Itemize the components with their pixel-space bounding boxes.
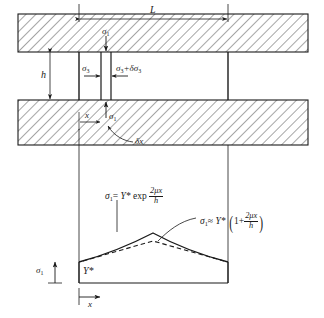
- label-yield-strength: Y*: [83, 266, 94, 276]
- label-sigma3-right: σ3+δσ3: [116, 64, 141, 75]
- label-gap-h: h: [41, 70, 46, 80]
- eq-approx-open-paren: (: [229, 214, 233, 233]
- eq-approx-relation: ≈: [208, 216, 213, 226]
- eq-exact-denominator: h: [149, 197, 163, 206]
- eq-exact-coefficient: Y*: [121, 191, 131, 201]
- eq-exact-fraction: 2μxh: [149, 187, 163, 206]
- eq-approx-coefficient: Y*: [215, 216, 225, 226]
- label-length-L: L: [150, 5, 156, 15]
- sigma-subscript: 1: [113, 116, 116, 122]
- eq-exact-relation: =: [113, 191, 118, 201]
- delta-sigma-term: +δσ: [123, 63, 138, 73]
- friction-hill-figure: L h σ1 σ3 σ3+δσ3 σ1 x δx σ1= Y* exp 2μxh…: [0, 0, 324, 318]
- label-sigma1-top: σ1: [102, 27, 109, 38]
- eq-approx-one-plus: 1+: [234, 216, 244, 226]
- label-axis-sigma1: σ1: [36, 266, 43, 277]
- figure-canvas: [0, 0, 324, 318]
- equation-approx: σ1≈ Y* (1+2μxh): [200, 212, 264, 233]
- upper-platen: [18, 14, 308, 52]
- label-sigma3-left: σ3: [82, 64, 89, 75]
- label-sigma1-bottom: σ1: [109, 112, 116, 123]
- label-delta-x: δx: [135, 137, 143, 146]
- delta-sigma-subscript: 3: [138, 68, 141, 74]
- eq-exact-function: exp: [133, 191, 147, 201]
- label-axis-x: x: [88, 300, 92, 309]
- sigma-subscript: 1: [106, 31, 109, 37]
- label-x-top: x: [85, 111, 89, 120]
- eq-approx-close-paren: ): [259, 214, 263, 233]
- eq-approx-denominator: h: [244, 222, 258, 231]
- eq-approx-fraction: 2μxh: [244, 212, 258, 231]
- lower-platen: [18, 100, 308, 145]
- sigma-subscript: 1: [40, 270, 43, 276]
- friction-hill-plot: [79, 233, 228, 283]
- projection-lines: [79, 129, 228, 283]
- slab-element: [101, 52, 111, 100]
- approx-equation-leader: [158, 218, 196, 241]
- equation-exact: σ1= Y* exp 2μxh: [105, 187, 163, 206]
- sigma-subscript: 3: [86, 68, 89, 74]
